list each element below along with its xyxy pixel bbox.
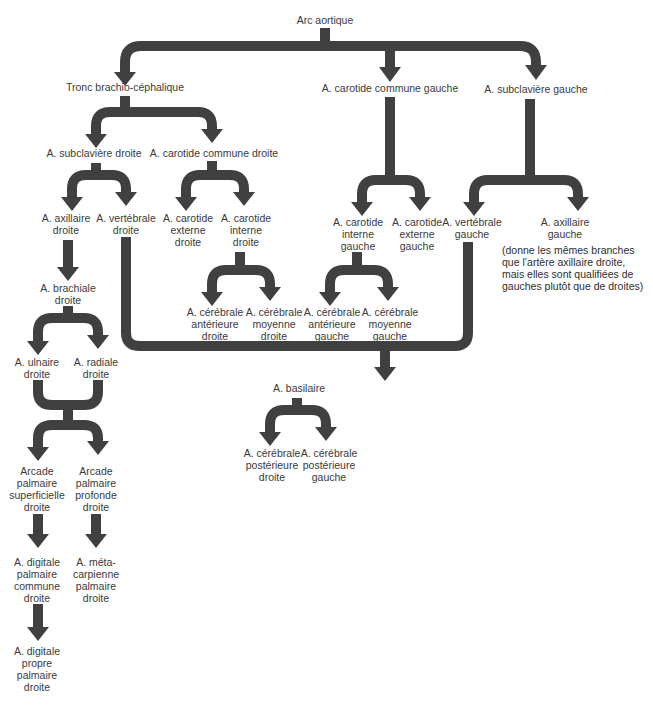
node-cerebrale-moyenne-droite: A. cérébrale moyenne droite (246, 306, 303, 342)
node-cerebrale-posterieure-droite: A. cérébrale postérieure droite (244, 447, 301, 483)
node-digitale-palmaire-commune: A. digitale palmaire commune droite (14, 556, 60, 604)
node-carotide-interne-gauche: A. carotide interne gauche (333, 216, 383, 252)
node-carotide-commune-droite: A. carotide commune droite (150, 147, 278, 159)
axillaire-gauche-note: (donne les mêmes branches que l’artère a… (502, 244, 643, 292)
node-arc-aortique: Arc aortique (297, 14, 354, 26)
node-digitale-propre-palmaire: A. digitale propre palmaire droite (14, 645, 60, 693)
node-cerebrale-anterieure-droite: A. cérébrale antérieure droite (187, 306, 244, 342)
node-carotide-externe-droite: A. carotide externe droite (163, 212, 213, 248)
node-axillaire-gauche: A. axillaire gauche (541, 216, 589, 240)
node-ulnaire-droite: A. ulnaire droite (15, 356, 59, 380)
node-axillaire-droite: A. axillaire droite (42, 212, 90, 236)
node-vertebrale-gauche: A. vertébrale gauche (442, 216, 502, 240)
node-tronc-brachio-cephalique: Tronc brachio-céphalique (66, 81, 184, 93)
node-arcade-palmaire-superficielle: Arcade palmaire superficielle droite (9, 465, 64, 513)
node-cerebrale-posterieure-gauche: A. cérébrale postérieure gauche (301, 447, 358, 483)
node-cerebrale-moyenne-gauche: A. cérébrale moyenne gauche (362, 306, 419, 342)
node-subclaviere-droite: A. subclavière droite (46, 147, 141, 159)
node-basilaire: A. basilaire (273, 382, 325, 394)
node-subclaviere-gauche: A. subclavière gauche (484, 83, 587, 95)
node-carotide-interne-droite: A. carotide interne droite (221, 212, 271, 248)
node-cerebrale-anterieure-gauche: A. cérébrale antérieure gauche (304, 306, 361, 342)
node-vertebrale-droite: A. vertébrale droite (96, 212, 156, 236)
node-metacarpienne-palmaire: A. méta- carpienne palmaire droite (73, 556, 119, 604)
node-brachiale-droite: A. brachiale droite (40, 282, 95, 306)
node-arcade-palmaire-profonde: Arcade palmaire profonde droite (75, 465, 116, 513)
node-radiale-droite: A. radiale droite (74, 356, 118, 380)
node-carotide-externe-gauche: A. carotide externe gauche (392, 216, 442, 252)
node-carotide-commune-gauche: A. carotide commune gauche (322, 82, 459, 94)
